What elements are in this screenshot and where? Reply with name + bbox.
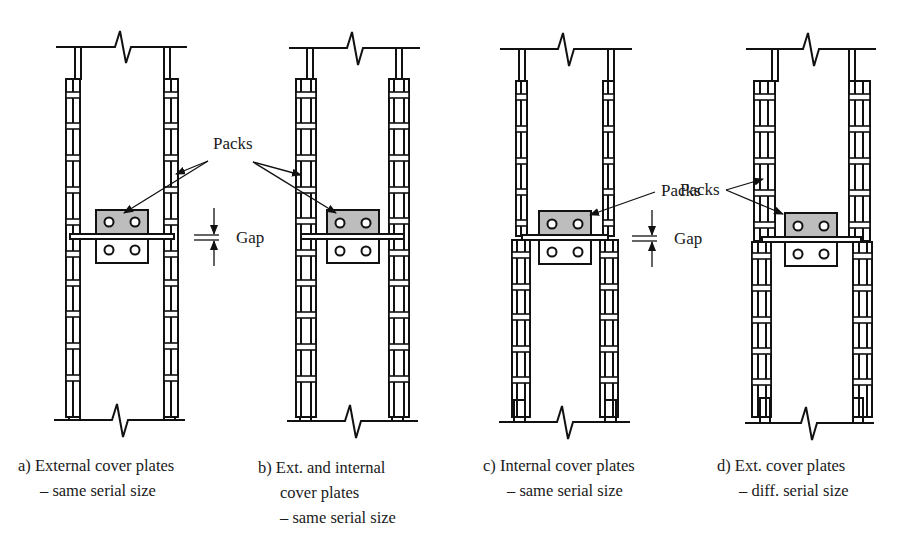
panel-c-gap-label: Gap [674, 228, 702, 250]
panel-a-caption: a) External cover plates – same serial s… [18, 453, 174, 503]
panel-c-caption: c) Internal cover plates – same serial s… [483, 453, 635, 503]
panel-d-caption-line1: d) Ext. cover plates [717, 453, 849, 478]
panel-b-caption-line2: cover plates [258, 480, 396, 505]
panel-d-caption: d) Ext. cover plates – diff. serial size [717, 453, 849, 503]
panel-b-caption-line1: b) Ext. and internal [258, 455, 396, 480]
panel-d-diagram [726, 33, 876, 440]
panel-d-packs-label: Packs [680, 179, 720, 201]
panel-b-diagram [253, 32, 420, 438]
panel-c-diagram [499, 33, 657, 439]
panel-a-packs-label: Packs [213, 133, 253, 155]
panel-c-caption-line2: – same serial size [483, 478, 635, 503]
panel-a-gap-label: Gap [236, 227, 264, 249]
panel-b-caption-line3: – same serial size [258, 505, 396, 530]
panel-b-caption: b) Ext. and internal cover plates – same… [258, 455, 396, 530]
panel-c-caption-line1: c) Internal cover plates [483, 453, 635, 478]
panel-d-caption-line2: – diff. serial size [717, 478, 849, 503]
panel-a-caption-line2: – same serial size [18, 478, 174, 503]
panel-a-caption-line1: a) External cover plates [18, 453, 174, 478]
panel-a-diagram [54, 31, 219, 437]
